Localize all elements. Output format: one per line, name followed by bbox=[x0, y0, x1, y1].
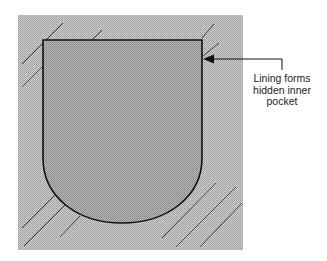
callout-line-1: Lining forms bbox=[246, 73, 318, 85]
callout-label: Lining forms hidden inner pocket bbox=[246, 73, 318, 108]
diagram-canvas bbox=[0, 0, 327, 261]
pocket-shape bbox=[43, 40, 202, 223]
callout-line-3: pocket bbox=[246, 96, 318, 108]
